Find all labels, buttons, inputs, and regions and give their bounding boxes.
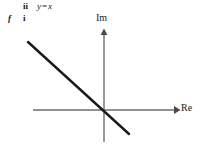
argand-diagram-figure: f i ii y=x Im Re — [0, 0, 204, 148]
plot-area — [0, 0, 204, 148]
locus-line — [28, 42, 129, 134]
imaginary-axis-arrowhead-icon — [101, 29, 108, 36]
real-axis-arrowhead-icon — [174, 106, 181, 114]
